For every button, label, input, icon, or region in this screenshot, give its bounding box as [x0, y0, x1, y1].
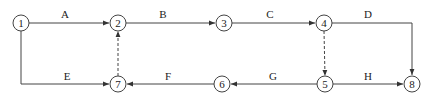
edge-c: C [232, 8, 315, 23]
svg-text:8: 8 [409, 78, 415, 90]
node-8: 8 [404, 76, 420, 92]
edge-b: B [126, 8, 215, 23]
svg-text:2: 2 [115, 17, 121, 29]
edge-label-a: A [61, 8, 69, 20]
svg-text:4: 4 [321, 17, 327, 29]
node-4: 4 [316, 15, 332, 31]
svg-text:6: 6 [219, 78, 225, 90]
edge-label-c: C [266, 8, 273, 20]
edge-label-h: H [364, 70, 372, 82]
node-7: 7 [110, 76, 126, 92]
svg-text:7: 7 [115, 78, 121, 90]
edge-label-e: E [64, 70, 71, 82]
edge-label-d: D [364, 8, 372, 20]
svg-text:3: 3 [221, 17, 227, 29]
edge-d: D [332, 8, 412, 75]
edge-h: H [333, 70, 403, 84]
svg-text:5: 5 [322, 78, 328, 90]
node-1: 1 [13, 15, 29, 31]
network-diagram: A B C D E F G H 1 2 3 [0, 0, 434, 100]
edge-label-b: B [159, 8, 166, 20]
svg-text:1: 1 [18, 17, 24, 29]
node-2: 2 [110, 15, 126, 31]
node-3: 3 [216, 15, 232, 31]
edge-label-f: F [165, 70, 171, 82]
node-6: 6 [214, 76, 230, 92]
edge-a: A [29, 8, 109, 23]
edge-g: G [231, 70, 317, 84]
edge-label-g: G [269, 70, 277, 82]
edge-e: E [21, 31, 109, 84]
dummy-edge-4-5 [324, 31, 325, 76]
node-5: 5 [317, 76, 333, 92]
edge-f: F [127, 70, 214, 84]
